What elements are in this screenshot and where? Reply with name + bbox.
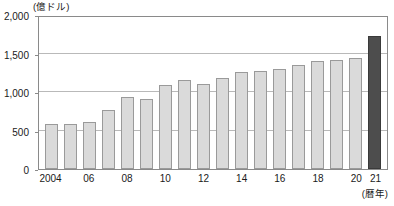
bar-2007[interactable] (102, 110, 115, 169)
bar-slot (175, 17, 194, 169)
bar-2016[interactable] (273, 69, 286, 169)
bar-2014[interactable] (235, 72, 248, 169)
bar-slot (156, 17, 175, 169)
y-axis-tick-label: 0 (23, 165, 34, 176)
bar-slot (61, 17, 80, 169)
bar-2005[interactable] (64, 124, 77, 169)
bars-layer (39, 17, 387, 169)
bar-2010[interactable] (159, 85, 172, 169)
bar-2012[interactable] (197, 84, 210, 169)
bar-chart-figure: (億ドル) 05001,0001,5002,000 20040608101214… (0, 0, 394, 206)
bar-slot (80, 17, 99, 169)
x-axis-tick-label: 18 (313, 173, 324, 185)
bar-slot (213, 17, 232, 169)
bar-2017[interactable] (292, 65, 305, 169)
bar-slot (308, 17, 327, 169)
y-axis-tick-label: 500 (12, 126, 34, 137)
x-axis-tick-label: 10 (160, 173, 171, 185)
x-axis-tick-label: 06 (83, 173, 94, 185)
x-axis-unit-label: (暦年) (362, 188, 388, 199)
bar-slot (365, 17, 384, 169)
bar-2009[interactable] (140, 99, 153, 169)
bar-2018[interactable] (311, 61, 324, 169)
y-axis-tick-labels: 05001,0001,5002,000 (0, 16, 34, 170)
bar-2015[interactable] (254, 71, 267, 169)
x-axis-tick-label: 20 (351, 173, 362, 185)
x-axis-tick-label: 16 (274, 173, 285, 185)
y-axis-unit-label: (億ドル) (33, 1, 69, 12)
bar-2011[interactable] (178, 80, 191, 169)
x-axis-tick-label: 2004 (39, 173, 61, 185)
y-axis-tick-mark (35, 170, 38, 171)
bar-2021[interactable] (368, 36, 381, 169)
bar-slot (137, 17, 156, 169)
bar-slot (118, 17, 137, 169)
bar-slot (289, 17, 308, 169)
bar-2006[interactable] (83, 122, 96, 169)
bar-2004[interactable] (45, 124, 58, 169)
y-axis-tick-label: 2,000 (4, 11, 34, 22)
bar-2020[interactable] (349, 58, 362, 169)
x-axis-tick-labels: 2004060810121416182021 (38, 173, 388, 187)
plot-area (38, 16, 388, 170)
bar-slot (42, 17, 61, 169)
x-axis-tick-label: 08 (121, 173, 132, 185)
bar-slot (346, 17, 365, 169)
bar-slot (232, 17, 251, 169)
x-axis-tick-label: 21 (370, 173, 381, 185)
bar-slot (251, 17, 270, 169)
y-axis-tick-label: 1,500 (4, 49, 34, 60)
bar-2008[interactable] (121, 97, 134, 169)
x-axis-tick-label: 14 (236, 173, 247, 185)
bar-2013[interactable] (216, 78, 229, 169)
bar-slot (270, 17, 289, 169)
bar-slot (194, 17, 213, 169)
bar-2019[interactable] (330, 60, 343, 169)
bar-slot (99, 17, 118, 169)
y-axis-tick-label: 1,000 (4, 88, 34, 99)
bar-slot (327, 17, 346, 169)
x-axis-tick-label: 12 (198, 173, 209, 185)
